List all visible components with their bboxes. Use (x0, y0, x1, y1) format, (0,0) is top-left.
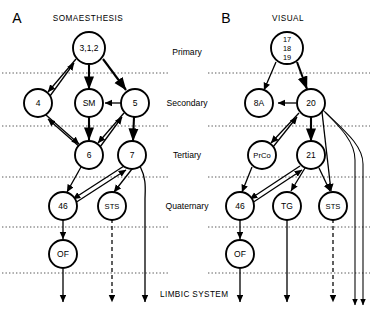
node-b-171819[interactable]: 17 18 19 (271, 32, 303, 64)
node-b-46-label: 46 (235, 201, 245, 211)
tier-label-primary: Primary (172, 47, 202, 57)
node-a-312[interactable]: 3,1,2 (73, 32, 105, 64)
tier-label-tertiary: Tertiary (173, 150, 202, 160)
node-b-20-label: 20 (306, 98, 316, 108)
node-b-8a[interactable]: 8A (245, 89, 273, 117)
panel-a-nodes: 3,1,2 4 SM 5 6 7 46 STS (24, 32, 149, 268)
node-a-7[interactable]: 7 (118, 141, 146, 169)
node-a-312-label: 3,1,2 (80, 43, 99, 53)
node-b-19-label: 19 (283, 53, 291, 62)
node-b-17-label: 17 (283, 35, 291, 44)
node-a-4[interactable]: 4 (24, 89, 52, 117)
node-b-tg[interactable]: TG (273, 192, 301, 220)
figure-canvas: Primary Secondary Tertiary Quaternary LI… (0, 0, 372, 316)
tier-label-quaternary: Quaternary (166, 201, 210, 211)
node-a-sts-label: STS (105, 202, 120, 211)
node-b-prco[interactable]: PrCo (248, 141, 276, 169)
panel-b-title: VISUAL (272, 14, 304, 23)
node-a-5[interactable]: 5 (121, 89, 149, 117)
node-b-21[interactable]: 21 (297, 141, 325, 169)
node-b-46[interactable]: 46 (226, 192, 254, 220)
node-b-21-label: 21 (306, 150, 316, 160)
node-b-prco-label: PrCo (253, 151, 270, 160)
limbic-system-label: LIMBIC SYSTEM (160, 290, 228, 299)
node-a-46-label: 46 (58, 201, 68, 211)
node-a-of-label: OF (57, 249, 69, 259)
node-b-8a-label: 8A (254, 98, 265, 108)
node-b-sts-label: STS (326, 202, 341, 211)
tier-label-secondary: Secondary (166, 98, 208, 108)
node-a-4-label: 4 (36, 98, 41, 108)
node-a-sm[interactable]: SM (75, 89, 103, 117)
node-a-6-label: 6 (87, 150, 92, 160)
node-a-sm-label: SM (83, 98, 96, 108)
node-a-of[interactable]: OF (49, 240, 77, 268)
panel-a-letter: A (12, 10, 22, 26)
node-a-6[interactable]: 6 (75, 141, 103, 169)
panel-a-title: SOMAESTHESIS (53, 14, 124, 23)
connectivity-diagram: Primary Secondary Tertiary Quaternary LI… (0, 0, 372, 316)
panel-b-letter: B (221, 10, 230, 26)
node-a-7-label: 7 (130, 150, 135, 160)
node-b-sts[interactable]: STS (319, 192, 347, 220)
node-b-of-label: OF (234, 249, 246, 259)
node-a-sts[interactable]: STS (98, 192, 126, 220)
node-b-of[interactable]: OF (226, 240, 254, 268)
node-a-46[interactable]: 46 (49, 192, 77, 220)
node-b-tg-label: TG (281, 201, 293, 211)
node-a-5-label: 5 (133, 98, 138, 108)
node-b-20[interactable]: 20 (297, 89, 325, 117)
node-b-18-label: 18 (283, 44, 291, 53)
